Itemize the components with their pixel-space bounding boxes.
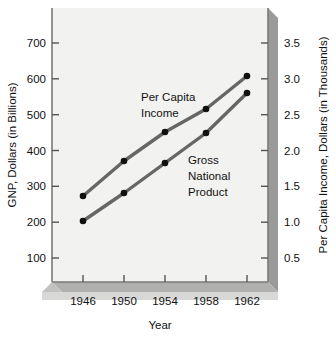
per-capita-income-label-line1: Per Capita [141,91,196,103]
y2-tick-label: 3.5 [284,37,300,49]
y2-tick-label: 1.0 [284,216,300,228]
y2-tick-label: 2.5 [284,109,300,121]
data-point [162,160,169,167]
y-tick-label: 100 [27,252,46,264]
y2-tick-label: 2.0 [284,145,300,157]
y2-tick-label: 0.5 [284,252,300,264]
chart-figure: 700 600 500 400 300 200 100 3.5 3.0 2.5 … [0,0,336,337]
y-axis-title: GNP, Dollars (in Billions) [6,82,18,207]
data-point [121,190,128,197]
y-tick-label: 400 [27,145,46,157]
data-point [80,193,87,200]
data-point [244,73,251,80]
y-tick-label: 300 [27,180,46,192]
plot-area [52,8,268,282]
y2-tick-label: 1.5 [284,180,300,192]
y-tick-label: 200 [27,216,46,228]
x-tick-label: 1958 [193,295,219,307]
data-point [162,129,169,136]
data-point [244,90,251,97]
per-capita-income-label-line2: Income [141,107,179,119]
y2-tick-label: 3.0 [284,73,300,85]
gross-national-product-label-line1: Gross [188,154,219,166]
x-axis-title: Year [148,319,171,331]
gross-national-product-label-line3: Product [188,186,228,198]
y-tick-label: 600 [27,73,46,85]
y-axis-tick-labels: 700 600 500 400 300 200 100 [27,37,46,264]
data-point [203,106,210,113]
panel-bevel-right [268,8,278,292]
y-tick-label: 500 [27,109,46,121]
panel-bevel-bottom [52,282,278,292]
line-chart: 700 600 500 400 300 200 100 3.5 3.0 2.5 … [0,0,336,337]
data-point [80,218,87,225]
y2-axis-title: Per Capita Income, Dollars (in Thousands… [317,36,329,253]
data-point [203,130,210,137]
x-tick-label: 1946 [70,295,96,307]
x-tick-label: 1954 [152,295,178,307]
gross-national-product-label-line2: National [188,170,230,182]
x-tick-label: 1962 [234,295,260,307]
x-tick-label: 1950 [111,295,137,307]
data-point [121,158,128,165]
y2-axis-tick-labels: 3.5 3.0 2.5 2.0 1.5 1.0 0.5 [284,37,300,264]
y-tick-label: 700 [27,37,46,49]
